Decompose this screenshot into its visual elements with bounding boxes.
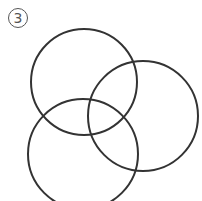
right-circle — [88, 61, 198, 171]
three-circles-diagram — [0, 0, 202, 201]
top-left-circle — [31, 29, 137, 135]
bottom-left-circle — [28, 99, 138, 201]
